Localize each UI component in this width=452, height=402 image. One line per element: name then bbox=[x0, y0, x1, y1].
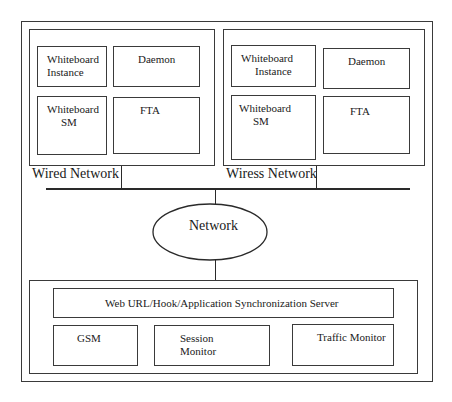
sync-server-box: Web URL/Hook/Application Synchronization… bbox=[53, 288, 394, 318]
session-monitor-box: Session Monitor bbox=[154, 325, 270, 366]
session-monitor-line1: Session bbox=[180, 332, 214, 345]
network-label: Network bbox=[189, 218, 238, 234]
gsm-box: GSM bbox=[53, 325, 138, 366]
network-to-server-connector bbox=[215, 260, 216, 281]
session-monitor-line2: Monitor bbox=[180, 345, 216, 358]
traffic-monitor-label: Traffic Monitor bbox=[317, 331, 386, 344]
sync-server-label: Web URL/Hook/Application Synchronization… bbox=[105, 297, 338, 310]
gsm-label: GSM bbox=[77, 332, 101, 345]
traffic-monitor-box: Traffic Monitor bbox=[292, 324, 394, 366]
